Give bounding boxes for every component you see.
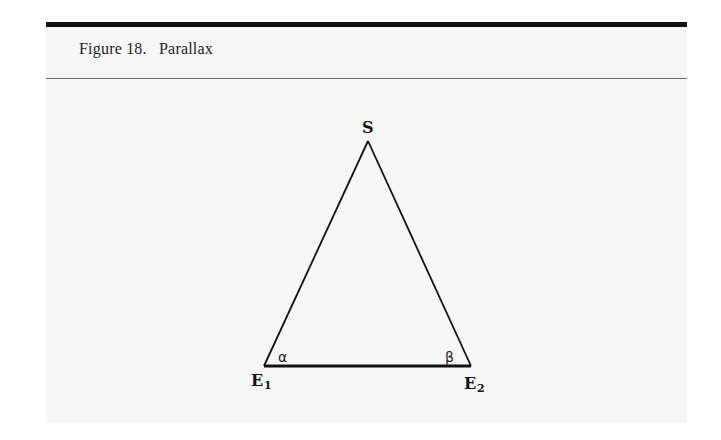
apex-label: S xyxy=(362,118,374,137)
side-e1-s xyxy=(264,141,368,366)
triangle xyxy=(264,141,471,366)
svg-text:2: 2 xyxy=(477,382,485,395)
e2-label: E 2 xyxy=(464,374,485,395)
svg-text:1: 1 xyxy=(264,379,272,392)
svg-text:E: E xyxy=(464,374,476,393)
e1-label: E 1 xyxy=(251,371,272,392)
parallax-diagram: S α β E 1 E 2 xyxy=(0,0,721,440)
alpha-angle-label: α xyxy=(278,349,287,365)
svg-text:E: E xyxy=(251,371,263,390)
beta-angle-label: β xyxy=(445,349,454,365)
side-e2-s xyxy=(368,141,471,366)
